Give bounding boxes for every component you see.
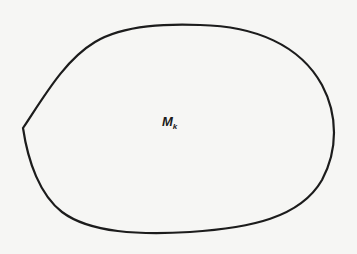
region-label: Mk — [162, 115, 177, 128]
region-label-subscript: k — [173, 122, 177, 131]
region-label-main: M — [162, 114, 173, 129]
region-boundary-svg — [0, 0, 357, 254]
region-boundary-curve — [23, 25, 334, 233]
diagram-canvas: Mk — [0, 0, 357, 254]
